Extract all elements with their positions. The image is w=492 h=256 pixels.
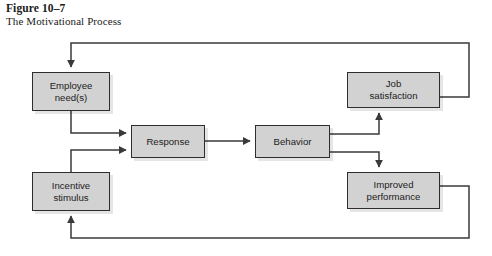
node-behavior: Behavior — [255, 125, 330, 158]
node-improved-performance-label: Improved performance — [367, 179, 421, 203]
node-employee-needs: Employee need(s) — [32, 72, 110, 111]
node-improved-performance: Improved performance — [347, 172, 440, 209]
node-employee-needs-label: Employee need(s) — [50, 80, 93, 104]
connector-layer — [0, 0, 492, 256]
edge-employee-needs-to-response — [71, 111, 126, 133]
edge-behavior-to-improved-performance — [330, 152, 379, 167]
node-response-label: Response — [146, 136, 189, 148]
node-incentive-stimulus-label: Incentive stimulus — [52, 180, 90, 204]
node-behavior-label: Behavior — [274, 136, 312, 148]
node-incentive-stimulus: Incentive stimulus — [32, 172, 110, 211]
node-response: Response — [131, 125, 205, 158]
node-job-satisfaction: Job satisfaction — [347, 72, 440, 108]
edge-incentive-stimulus-to-response — [71, 150, 126, 172]
edge-behavior-to-job-satisfaction — [330, 113, 379, 134]
node-job-satisfaction-label: Job satisfaction — [370, 78, 418, 102]
figure-page: Figure 10–7 The Motivational Process — [0, 0, 492, 256]
